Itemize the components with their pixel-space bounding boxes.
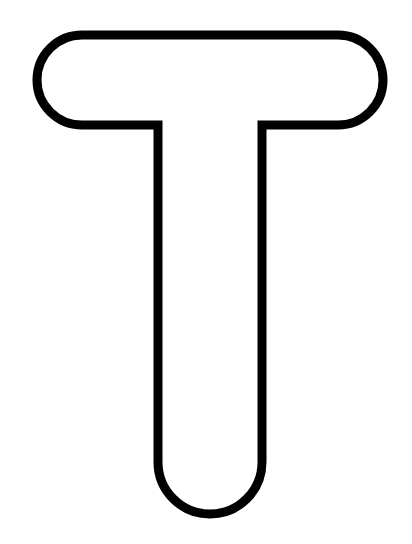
letter-t-outline <box>0 0 412 544</box>
letter-t-shape <box>37 35 383 514</box>
